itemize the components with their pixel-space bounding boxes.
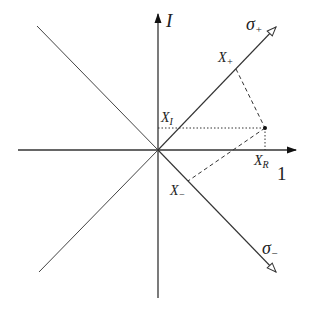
diagonal-upper-left xyxy=(37,26,158,150)
sigma-minus-label: σ− xyxy=(262,238,278,259)
sigma-minus-ray xyxy=(158,150,276,272)
diagonal-lower-left xyxy=(39,150,158,272)
sigma-plus-label: σ+ xyxy=(246,14,262,35)
x-minus-label: X− xyxy=(169,183,185,200)
projection-to-xplus xyxy=(236,69,265,128)
diagram-canvas: I 1 σ+ σ− X+ X− XI XR xyxy=(0,0,310,316)
vertical-axis-label: I xyxy=(165,10,174,31)
x-r-label: XR xyxy=(253,153,269,170)
x-plus-label: X+ xyxy=(217,50,233,67)
state-point xyxy=(263,126,267,130)
horizontal-axis-label: 1 xyxy=(277,163,287,184)
sigma-plus-ray xyxy=(158,27,276,150)
x-i-label: XI xyxy=(160,110,174,127)
